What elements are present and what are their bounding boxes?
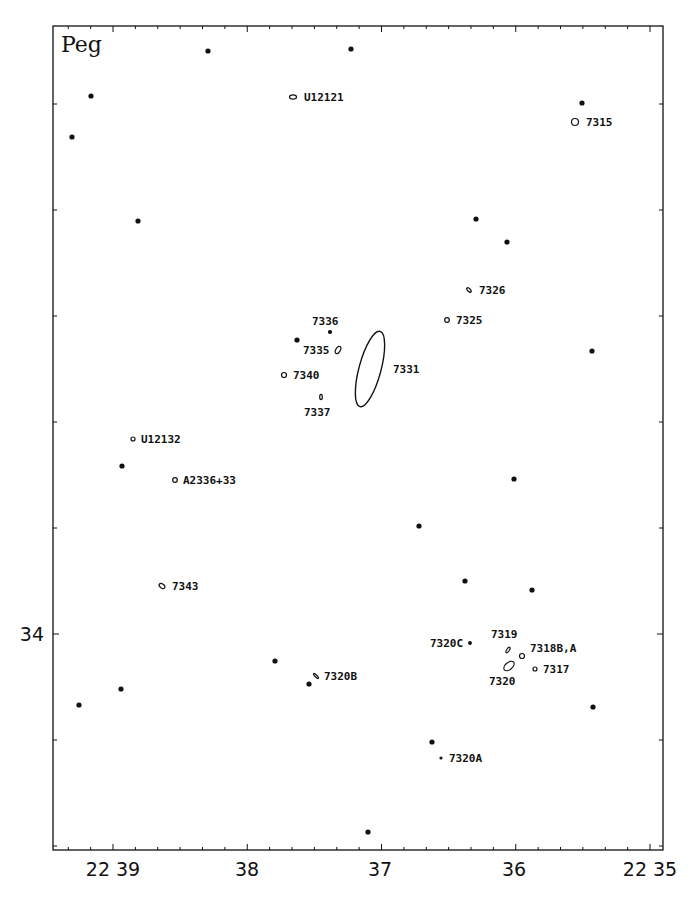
star-dot bbox=[504, 239, 509, 244]
galaxy-label: 7318B,A bbox=[530, 642, 577, 655]
star-chart: U1212173157326732573367335733173407337U1… bbox=[0, 0, 699, 909]
star-dot bbox=[348, 46, 353, 51]
y-axis-label: 34 bbox=[20, 623, 44, 645]
galaxy-label: 7331 bbox=[393, 363, 420, 376]
star-dot bbox=[118, 686, 123, 691]
galaxy-label: 7320C bbox=[430, 637, 463, 650]
x-axis-label: 36 bbox=[502, 858, 526, 880]
star-dot bbox=[589, 348, 594, 353]
star-dot bbox=[429, 739, 434, 744]
star-dot bbox=[88, 93, 93, 98]
star-dot bbox=[511, 476, 516, 481]
galaxy-label: 7320A bbox=[449, 752, 482, 765]
star-dot bbox=[579, 100, 584, 105]
x-axis-label: 38 bbox=[235, 858, 259, 880]
star-dot bbox=[462, 578, 467, 583]
star-dot bbox=[306, 681, 311, 686]
star-dot bbox=[205, 48, 210, 53]
galaxy-label: 7343 bbox=[172, 580, 199, 593]
galaxy-label: A2336+33 bbox=[183, 474, 236, 487]
star-dot bbox=[473, 216, 478, 221]
star-dot bbox=[76, 702, 81, 707]
x-axis-label: 22 35 bbox=[623, 858, 677, 880]
galaxy-label: 7315 bbox=[586, 116, 613, 129]
star-dot bbox=[119, 463, 124, 468]
galaxy-label: 7326 bbox=[479, 284, 506, 297]
x-axis-label: 22 39 bbox=[86, 858, 140, 880]
x-axis-label: 37 bbox=[368, 858, 392, 880]
galaxy-label: 7336 bbox=[312, 315, 339, 328]
star-dot bbox=[69, 134, 74, 139]
star-dot bbox=[590, 704, 595, 709]
y-axis-labels: 34 bbox=[20, 623, 44, 645]
galaxy-label: 7320 bbox=[489, 675, 516, 688]
star-dot bbox=[272, 658, 277, 663]
galaxy-ellipse-icon bbox=[329, 331, 332, 334]
galaxy-label: 7319 bbox=[491, 628, 518, 641]
galaxy-marker: A2336+33 bbox=[173, 474, 236, 487]
galaxy-ellipse-icon bbox=[469, 642, 472, 645]
galaxy-label: 7335 bbox=[303, 344, 330, 357]
galaxy-ellipse-icon bbox=[440, 757, 442, 759]
background bbox=[0, 0, 699, 909]
star-dot bbox=[135, 218, 140, 223]
star-dot bbox=[365, 829, 370, 834]
galaxy-label: 7340 bbox=[293, 369, 320, 382]
galaxy-label: U12132 bbox=[141, 433, 181, 446]
galaxy-label: 7320B bbox=[324, 670, 357, 683]
galaxy-label: U12121 bbox=[304, 91, 344, 104]
star-dot bbox=[416, 523, 421, 528]
constellation-label: Peg bbox=[61, 32, 102, 57]
galaxy-label: 7325 bbox=[456, 314, 483, 327]
galaxy-label: 7317 bbox=[543, 663, 570, 676]
star-dot bbox=[294, 337, 299, 342]
galaxy-label: 7337 bbox=[304, 406, 331, 419]
star-dot bbox=[529, 587, 534, 592]
